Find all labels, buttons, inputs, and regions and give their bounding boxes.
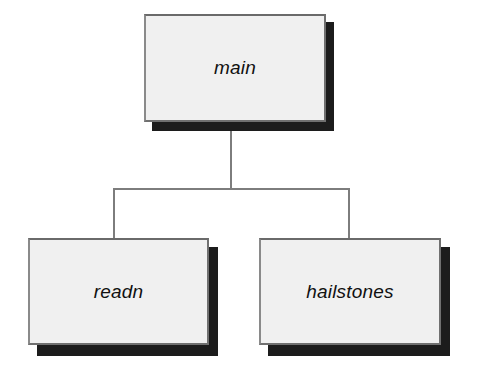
node-hailstones-label: hailstones [306,281,394,303]
connector-bus-to-hailstones [348,188,350,239]
node-readn-label: readn [94,281,144,303]
node-main-label: main [214,57,256,79]
node-main-body[interactable]: main [144,14,326,122]
structure-chart-canvas: main readn hailstones [0,0,480,389]
connector-bus-to-readn [113,188,115,239]
connector-horizontal-bus [113,188,350,190]
node-readn-body[interactable]: readn [28,238,209,345]
node-hailstones-body[interactable]: hailstones [259,238,441,345]
connector-main-to-bus [230,131,232,190]
